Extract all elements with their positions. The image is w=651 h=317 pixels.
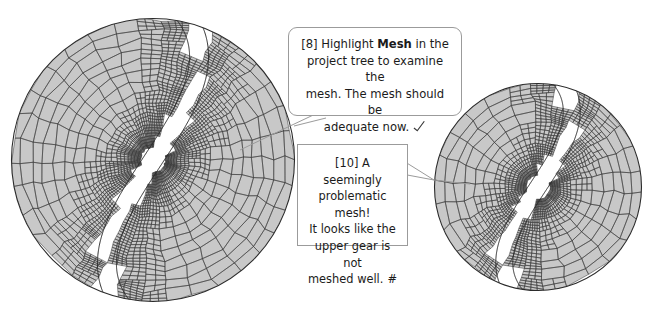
callout-2-line-1: [10] A seemingly [305,155,400,188]
callout-2-line-3: It looks like the [305,221,400,238]
left-mesh-svg [8,8,298,313]
callout-1-line-4: adequate now. [298,119,452,136]
check-mark-icon [412,119,427,137]
callout-step-10[interactable]: [10] A seemingly problematic mesh! It lo… [297,144,408,246]
callout-step-8[interactable]: [8] Highlight Mesh in the project tree t… [288,27,462,116]
callout-2-line-2: problematic mesh! [305,188,400,221]
callout-1-line-1-post: in the [412,37,449,51]
callout-1-bold-term: Mesh [377,37,412,51]
callout-2-line-5: meshed well.# [305,271,400,288]
callout-1-line-1-pre: [8] Highlight [301,37,377,51]
callout-1-line-1: [8] Highlight Mesh in the [298,36,452,53]
callout-1-line-4-text: adequate now. [324,120,409,134]
callout-2-tail [400,158,472,202]
callout-1-line-3: mesh. The mesh should be [298,86,452,119]
callout-2-line-4: upper gear is not [305,238,400,271]
callout-2-line-5-text: meshed well. [308,272,383,286]
left-mesh-figure [8,8,298,313]
figure-canvas: [8] Highlight Mesh in the project tree t… [0,0,651,317]
hash-mark-icon: # [387,271,397,288]
callout-1-line-2: project tree to examine the [298,53,452,86]
